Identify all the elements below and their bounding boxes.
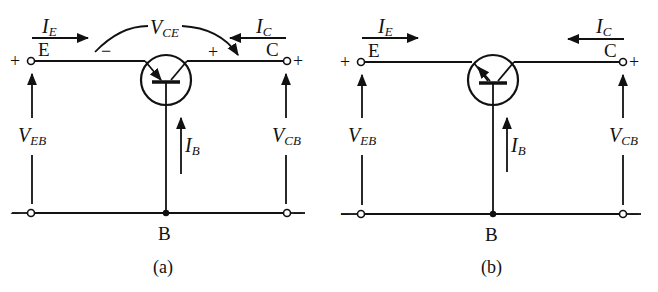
emitter-label: E: [38, 39, 50, 60]
emitter-label: E: [368, 40, 380, 61]
left-minus-sign: −: [340, 204, 350, 224]
ic-label: IC: [595, 15, 612, 39]
emitter-terminal: [28, 58, 35, 65]
right-bottom-terminal: [620, 211, 627, 218]
ib-label: IB: [184, 134, 200, 158]
emitter-line: [474, 63, 488, 81]
vcb-label: VCB: [272, 124, 301, 148]
left-plus-sign: +: [340, 52, 350, 72]
collector-label: C: [266, 39, 279, 60]
left-bottom-terminal: [28, 210, 35, 217]
right-plus-sign: +: [293, 51, 303, 71]
left-plus-sign: +: [10, 51, 20, 71]
veb-label: VEB: [18, 124, 46, 148]
caption-a: (a): [153, 257, 173, 278]
vce-plus-sign: +: [208, 42, 218, 62]
transistor-symbol: [141, 55, 191, 213]
base-label: B: [158, 223, 171, 244]
right-minus-sign: −: [293, 203, 303, 223]
circuit-diagrams: IE E IC C VCE − + + − + − VEB VCB IB B (…: [0, 0, 658, 292]
left-bottom-terminal: [358, 211, 365, 218]
vce-minus-sign: −: [101, 41, 111, 61]
veb-label: VEB: [348, 124, 376, 148]
emitter-arrow-icon: [145, 61, 161, 80]
collector-terminal: [284, 58, 291, 65]
ie-label: IE: [377, 15, 393, 39]
emitter-arrow-icon: [478, 67, 490, 81]
ib-label: IB: [510, 134, 526, 158]
caption-b: (b): [481, 257, 502, 278]
base-label: B: [485, 224, 498, 245]
right-plus-sign: +: [629, 52, 639, 72]
vcb-label: VCB: [609, 124, 638, 148]
diagram-b: IE E IC C + − + − VEB VCB IB B (b): [340, 15, 641, 278]
vce-label: VCE: [150, 16, 179, 40]
right-bottom-terminal: [284, 210, 291, 217]
ie-label: IE: [41, 15, 57, 39]
ic-label: IC: [255, 15, 272, 39]
left-minus-sign: −: [10, 203, 20, 223]
collector-terminal: [620, 59, 627, 66]
diagram-a: IE E IC C VCE − + + − + − VEB VCB IB B (…: [10, 15, 305, 278]
right-minus-sign: −: [629, 204, 639, 224]
collector-label: C: [604, 40, 617, 61]
emitter-terminal: [358, 59, 365, 66]
